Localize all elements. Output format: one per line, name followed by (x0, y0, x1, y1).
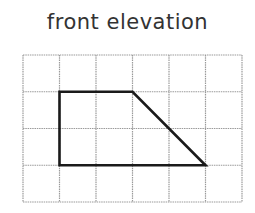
grid-lines (23, 55, 242, 202)
grid-diagram (0, 0, 255, 213)
